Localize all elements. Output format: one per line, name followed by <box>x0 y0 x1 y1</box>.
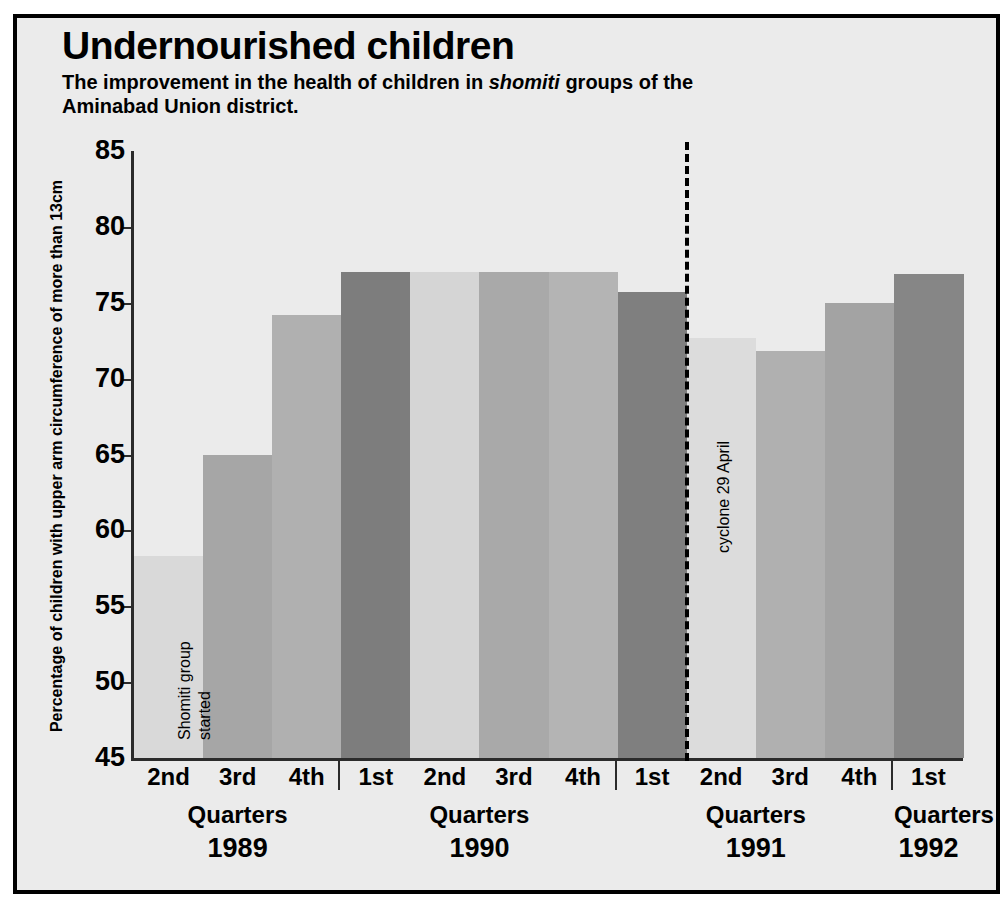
x-axis-tick-label: 2nd <box>410 763 479 791</box>
y-axis-tick-label: 80 <box>95 211 125 242</box>
x-axis-tick-label: 3rd <box>756 763 825 791</box>
annotation-cyclone-29-april: cyclone 29 April <box>715 553 827 571</box>
quarters-label: Quarters <box>618 798 894 831</box>
bar <box>341 272 411 758</box>
quarters-label: Quarters <box>894 798 963 831</box>
year-label: 1989 <box>134 831 341 866</box>
x-axis-tick-label: 4th <box>272 763 341 791</box>
y-axis-tick-label: 70 <box>95 363 125 394</box>
year-group: Quarters1992 <box>894 798 963 866</box>
x-axis-tick-label: 1st <box>341 763 410 791</box>
subtitle-text-1: The improvement in the health of childre… <box>62 71 489 93</box>
bar <box>410 272 480 758</box>
y-axis-title-text: Percentage of children with upper arm ci… <box>47 180 67 732</box>
chart-subtitle: The improvement in the health of childre… <box>62 70 762 118</box>
y-axis-tick-label: 60 <box>95 514 125 545</box>
bar-series <box>134 151 963 758</box>
year-group-separator <box>338 760 340 790</box>
quarters-label: Quarters <box>341 798 617 831</box>
x-axis-year-groups: Quarters1989Quarters1990Quarters1991Quar… <box>131 798 966 888</box>
year-group: Quarters1989 <box>134 798 341 866</box>
y-axis-tick-label: 50 <box>95 666 125 697</box>
heading-block: Undernourished children The improvement … <box>62 24 962 118</box>
x-axis-tick-label: 3rd <box>479 763 548 791</box>
year-group: Quarters1991 <box>618 798 894 866</box>
bar <box>825 303 895 758</box>
year-label: 1990 <box>341 831 617 866</box>
y-axis-title: Percentage of children with upper arm ci… <box>35 166 79 746</box>
bar <box>272 315 342 758</box>
chart-page: Undernourished children The improvement … <box>0 0 1008 916</box>
x-axis-tick-label: 1st <box>618 763 687 791</box>
bar <box>618 292 688 758</box>
year-group-separator <box>615 760 617 790</box>
plot-area: 455055606570758085 Shomiti groupstartedc… <box>131 151 963 758</box>
x-axis-labels: 2nd3rd4th1st2nd3rd4th1st2nd3rd4th1st <box>131 763 966 803</box>
y-axis-tick-label: 75 <box>95 287 125 318</box>
chart-frame: Undernourished children The improvement … <box>13 14 1000 894</box>
y-axis-tick-label: 85 <box>95 135 125 166</box>
bar <box>894 274 964 758</box>
x-axis-tick-label: 2nd <box>134 763 203 791</box>
quarters-label: Quarters <box>134 798 341 831</box>
x-axis-tick-label: 4th <box>825 763 894 791</box>
year-label: 1991 <box>618 831 894 866</box>
x-axis-tick-label: 4th <box>549 763 618 791</box>
y-axis-tick-label: 55 <box>95 590 125 621</box>
year-group-separator <box>891 760 893 790</box>
y-axis-tick-label: 65 <box>95 438 125 469</box>
cyclone-marker-line <box>685 142 689 761</box>
bar <box>549 272 619 758</box>
y-axis-tick-label: 45 <box>95 742 125 773</box>
bar <box>479 272 549 758</box>
x-axis-tick-label: 2nd <box>687 763 756 791</box>
year-group: Quarters1990 <box>341 798 617 866</box>
x-axis-tick-label: 1st <box>894 763 963 791</box>
chart-title: Undernourished children <box>62 24 962 68</box>
subtitle-italic-term: shomiti <box>489 71 560 93</box>
year-label: 1992 <box>894 831 963 866</box>
x-axis-tick-label: 3rd <box>203 763 272 791</box>
